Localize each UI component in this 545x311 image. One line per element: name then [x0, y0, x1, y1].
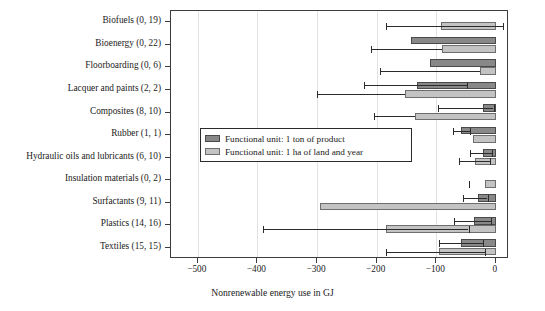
- error-bar-ha: [459, 161, 490, 162]
- category-tick: [165, 21, 170, 22]
- x-axis-tick-label: −500: [187, 264, 206, 274]
- category-tick: [165, 134, 170, 135]
- error-cap: [488, 195, 489, 202]
- error-bar-ton: [454, 221, 491, 222]
- error-cap: [463, 195, 464, 202]
- category-tick: [165, 66, 170, 67]
- error-cap: [467, 82, 468, 89]
- error-bar-ton: [470, 153, 492, 154]
- bar-ha: [485, 180, 496, 188]
- category-label: Floorboarding (0, 6): [85, 61, 161, 70]
- bar-ha: [320, 203, 496, 211]
- bar-ton: [430, 59, 496, 67]
- bar-ha: [442, 45, 496, 53]
- bar-group: [171, 11, 507, 34]
- category-label: Plastics (14, 16): [101, 219, 161, 228]
- error-bar-ton: [438, 108, 493, 109]
- error-cap: [503, 23, 504, 30]
- error-bar-ton: [453, 131, 470, 132]
- legend-swatch-dark-icon: [205, 135, 220, 143]
- chart-figure: Biofuels (0, 19)Bioenergy (0, 22)Floorbo…: [0, 0, 545, 311]
- error-cap: [491, 218, 492, 225]
- error-bar-ton: [364, 85, 468, 86]
- bar-group: [171, 191, 507, 214]
- error-bar-ha: [386, 26, 503, 27]
- error-bar-ha: [317, 94, 405, 95]
- category-label: Textiles (15, 15): [100, 242, 161, 251]
- error-cap: [494, 105, 495, 112]
- bar-ha: [480, 67, 496, 75]
- category-label: Hydraulic oils and lubricants (6, 10): [26, 152, 161, 161]
- error-cap: [386, 249, 387, 256]
- bar-group: [171, 214, 507, 237]
- category-tick: [165, 179, 170, 180]
- error-cap: [492, 150, 493, 157]
- category-tick: [165, 112, 170, 113]
- error-cap: [438, 105, 439, 112]
- x-axis-tick: [316, 258, 317, 263]
- error-cap: [470, 128, 471, 135]
- legend-item-ton: Functional unit: 1 ton of product: [205, 132, 407, 145]
- category-label: Composites (8, 10): [90, 107, 161, 116]
- x-axis-tick: [256, 258, 257, 263]
- error-cap: [380, 68, 381, 75]
- x-axis: −500−400−300−200−1000: [0, 258, 545, 264]
- category-tick: [165, 157, 170, 158]
- x-axis-tick: [197, 258, 198, 263]
- category-label: Bioenergy (0, 22): [95, 39, 161, 48]
- x-axis-tick: [376, 258, 377, 263]
- error-cap: [364, 82, 365, 89]
- x-axis-tick-label: −400: [247, 264, 266, 274]
- error-cap: [453, 128, 454, 135]
- x-axis-tick: [495, 258, 496, 263]
- category-tick: [165, 224, 170, 225]
- bar-group: [171, 236, 507, 259]
- error-cap: [263, 226, 264, 233]
- x-axis-tick-label: −100: [426, 264, 445, 274]
- category-label: Surfactants (9, 11): [92, 197, 161, 206]
- category-tick: [165, 202, 170, 203]
- x-axis-tick-label: 0: [493, 264, 498, 274]
- error-bar-ha: [263, 229, 468, 230]
- error-cap: [490, 158, 491, 165]
- legend-label-ton: Functional unit: 1 ton of product: [225, 134, 345, 144]
- category-label: Biofuels (0, 19): [102, 16, 161, 25]
- x-axis-tick-label: −300: [306, 264, 325, 274]
- bar-group: [171, 56, 507, 79]
- legend: Functional unit: 1 ton of product Functi…: [200, 128, 412, 162]
- bar-ha: [473, 135, 496, 143]
- category-tick: [165, 44, 170, 45]
- error-bar-ton: [439, 243, 483, 244]
- error-bar-ha: [380, 71, 480, 72]
- x-axis-title: Nonrenewable energy use in GJ: [0, 287, 545, 298]
- error-cap: [459, 158, 460, 165]
- bar-group: [171, 101, 507, 124]
- error-cap: [454, 218, 455, 225]
- error-cap: [469, 181, 470, 188]
- error-cap: [439, 240, 440, 247]
- bar-ha: [405, 90, 496, 98]
- error-bar-ha: [371, 49, 443, 50]
- error-cap: [485, 249, 486, 256]
- error-cap: [470, 150, 471, 157]
- category-tick: [165, 89, 170, 90]
- category-label: Lacquer and paints (2, 2): [68, 84, 161, 93]
- bar-ton: [411, 37, 496, 45]
- error-cap: [483, 240, 484, 247]
- bar-group: [171, 79, 507, 102]
- error-cap: [371, 46, 372, 53]
- error-cap: [317, 91, 318, 98]
- error-cap: [469, 226, 470, 233]
- bar-ha: [415, 113, 496, 121]
- category-tick: [165, 247, 170, 248]
- x-axis-tick-label: −200: [366, 264, 385, 274]
- legend-swatch-light-icon: [205, 148, 220, 156]
- bar-group: [171, 34, 507, 57]
- legend-item-ha: Functional unit: 1 ha of land and year: [205, 145, 407, 158]
- bar-group: [171, 169, 507, 192]
- error-bar-ha: [374, 116, 415, 117]
- error-cap: [386, 23, 387, 30]
- category-label: Rubber (1, 1): [111, 129, 161, 138]
- category-label: Insulation materials (0, 2): [65, 174, 161, 183]
- error-bar-ha: [386, 252, 486, 253]
